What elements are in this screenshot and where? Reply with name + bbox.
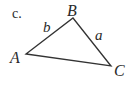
triangle-figure: c. B A C b a [0, 0, 132, 110]
vertex-b-label: B [67, 3, 77, 19]
vertex-a-label: A [10, 50, 20, 66]
side-a-label: a [95, 28, 103, 43]
vertex-c-label: C [114, 63, 125, 79]
part-label: c. [12, 7, 22, 21]
side-b-label: b [43, 20, 51, 35]
